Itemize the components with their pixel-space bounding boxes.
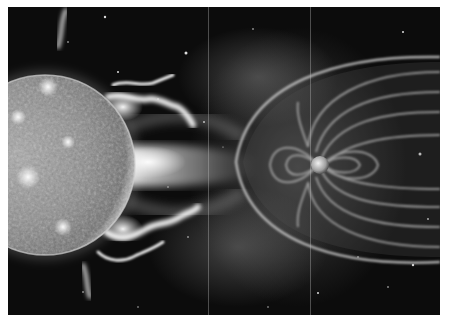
image-seam-line [310,7,311,315]
image-seam-line [208,7,209,315]
earth [311,156,329,174]
space-illustration [8,7,440,315]
scene-svg [8,7,440,315]
